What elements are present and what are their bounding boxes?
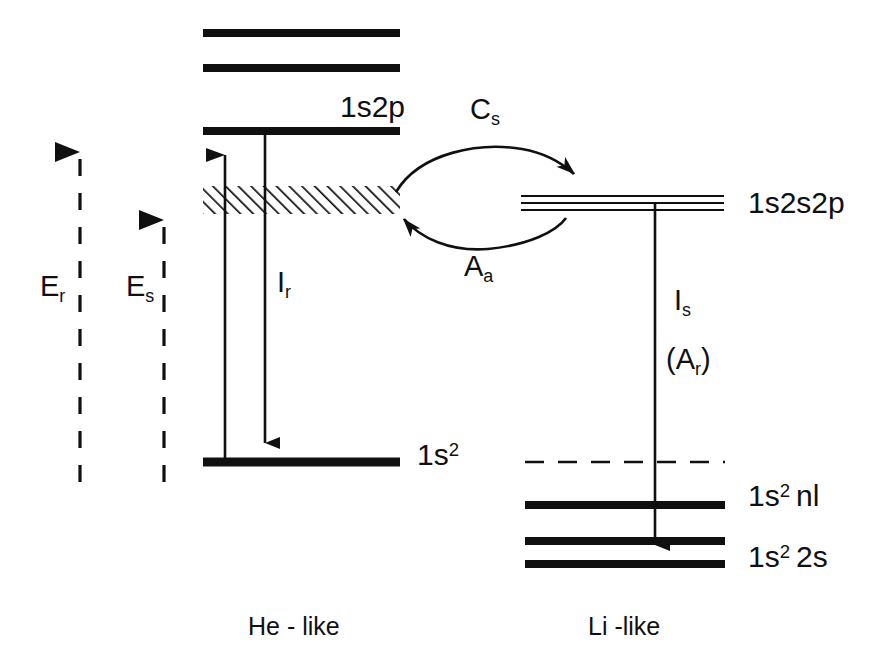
he-like-transition-arrows: [225, 131, 265, 462]
level-label-he-ground: 1s2: [417, 440, 459, 470]
continuum-band: [203, 186, 400, 214]
transition-label-Ar: (Ar): [666, 345, 711, 378]
rate-arrow-group: [396, 147, 574, 249]
energy-level-diagram: 1s2p 1s2 1s2s2p 1s2 nl 1s2 2s Er Es Ir I…: [0, 0, 893, 665]
energy-label-Es: Es: [126, 272, 154, 305]
energy-label-Er: Er: [40, 272, 65, 305]
rate-arrow-Aa-path: [404, 218, 566, 249]
column-caption-li-like: Li -like: [588, 614, 660, 639]
level-label-1s2s2p: 1s2s2p: [748, 188, 845, 218]
transition-label-Ir: Ir: [277, 268, 291, 301]
level-label-li-2s: 1s2 2s: [748, 542, 828, 572]
rate-label-Cs: Cs: [470, 95, 500, 128]
rate-label-Aa: Aa: [464, 252, 493, 285]
rate-arrow-Cs-path: [396, 147, 574, 192]
column-caption-he-like: He - like: [248, 614, 340, 639]
transition-label-Is: Is: [674, 286, 691, 319]
level-label-li-nl: 1s2 nl: [748, 481, 819, 511]
level-label-1s2p: 1s2p: [340, 92, 405, 122]
li-like-level-group: [521, 196, 725, 564]
energy-scale-arrows: [80, 152, 164, 482]
level-line-li-1s2s2p: [521, 196, 724, 210]
